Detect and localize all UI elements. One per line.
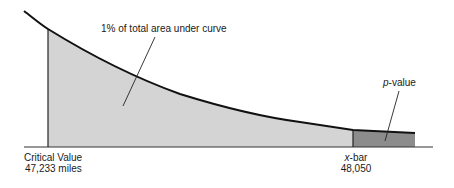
critical-value-label: Critical Value 47,233 miles — [24, 152, 82, 174]
critical-region-area — [48, 29, 353, 147]
pvalue-label: p-value — [383, 77, 416, 88]
xbar-label: x-bar 48,050 — [340, 152, 372, 174]
critical-value-number: 47,233 miles — [24, 163, 82, 174]
pvalue-label-rest: -value — [389, 77, 416, 88]
area-label: 1% of total area under curve — [101, 23, 227, 34]
area-label-text: 1% of total area under curve — [101, 23, 227, 34]
xbar-value: 48,050 — [340, 163, 372, 174]
xbar-title: x-bar — [340, 152, 372, 163]
xbar-title-rest: -bar — [350, 152, 368, 163]
critical-value-title: Critical Value — [24, 152, 82, 163]
